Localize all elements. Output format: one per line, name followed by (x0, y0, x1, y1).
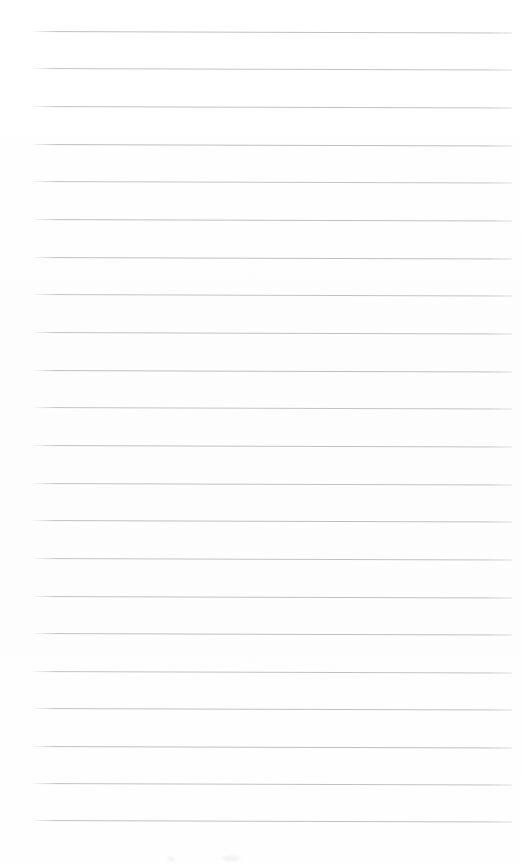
ruled-line (31, 332, 512, 335)
ruled-line-layer (0, 0, 521, 865)
ruled-line (31, 370, 512, 373)
ruled-line (31, 257, 512, 260)
ruled-line (31, 596, 512, 599)
ruled-line (31, 106, 512, 109)
ruled-line (31, 68, 512, 71)
ruled-line (31, 219, 512, 222)
ruled-line (31, 144, 512, 147)
ruled-line (31, 445, 512, 448)
ruled-line (31, 746, 512, 749)
ruled-line (31, 820, 512, 823)
ruled-line (31, 633, 512, 636)
ruled-line (31, 558, 512, 561)
ruled-line (31, 483, 512, 486)
ruled-line (31, 407, 512, 410)
ruled-line (31, 708, 512, 711)
ruled-line (31, 671, 512, 674)
ruled-line (31, 181, 512, 184)
ruled-line (31, 520, 512, 523)
ruled-line (31, 783, 512, 786)
ruled-line (31, 294, 512, 297)
notebook-page: Blank lined notebook page (0, 0, 521, 865)
ruled-line (31, 31, 512, 34)
